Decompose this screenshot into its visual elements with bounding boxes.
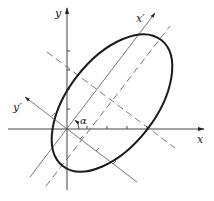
- rotated-ellipse-diagram: y x x′ y′ α: [0, 0, 214, 201]
- x-axis-label: x: [197, 133, 204, 146]
- angle-alpha-label: α: [80, 115, 87, 126]
- y-prime-axis-label: y′: [12, 101, 22, 114]
- y-axis: [67, 8, 70, 190]
- x-prime-axis: [30, 13, 155, 177]
- x-axis: [8, 126, 204, 129]
- y-axis-label: y: [54, 7, 62, 20]
- x-prime-axis-label: x′: [136, 12, 145, 25]
- ellipse: [28, 13, 196, 193]
- diagram-canvas: y x x′ y′ α: [0, 0, 214, 201]
- dashed-line-parallel-x-prime: [46, 26, 170, 186]
- dashed-line-parallel-y-prime: [47, 52, 175, 148]
- angle-arc: [75, 120, 79, 129]
